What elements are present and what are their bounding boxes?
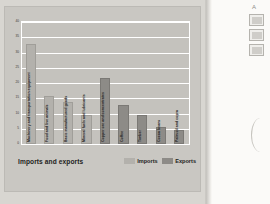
y-axis-tick-label: 10 bbox=[10, 111, 19, 115]
page-fold-line bbox=[205, 0, 206, 204]
y-axis-tick-label: 30 bbox=[10, 50, 19, 54]
bar-category-label: Palm oil and copra bbox=[176, 110, 180, 142]
bar-slot[interactable]: Copper ore and concentrates bbox=[100, 22, 108, 144]
margin-thumbnail-2 bbox=[249, 29, 264, 41]
bar-slot[interactable]: Timber bbox=[137, 22, 145, 144]
margin-curve-decoration bbox=[251, 118, 270, 152]
y-axis-tick-label: 0 bbox=[10, 141, 19, 145]
bar-slot[interactable]: Basic manufactured goods bbox=[63, 22, 71, 144]
y-axis-tick-label: 5 bbox=[10, 126, 19, 130]
thumbnail-fill-icon bbox=[252, 47, 262, 54]
bar-series: Machinery and transportation equipmentFo… bbox=[22, 22, 189, 144]
chart-legend: ImportsExports bbox=[124, 158, 196, 164]
bar-category-label: Cocoa beans bbox=[157, 120, 161, 142]
bar-category-label: Food and live animals bbox=[46, 104, 50, 142]
bar-slot[interactable]: Coffee bbox=[118, 22, 126, 144]
bar-slot[interactable]: Palm oil and copra bbox=[174, 22, 182, 144]
bar-slot[interactable]: Machinery and transportation equipment bbox=[26, 22, 34, 144]
figure-card: Percentage of total 0510152025303540 Mac… bbox=[4, 6, 201, 192]
y-axis-tick-label: 40 bbox=[10, 19, 19, 23]
page-gutter-shadow bbox=[205, 0, 212, 204]
bar-category-label: Mineral fuels and lubricants bbox=[83, 94, 87, 142]
bar-slot[interactable]: Cocoa beans bbox=[156, 22, 164, 144]
legend-item-exports[interactable]: Exports bbox=[162, 158, 196, 164]
gridline bbox=[22, 144, 189, 145]
legend-swatch-icon bbox=[124, 158, 135, 164]
bar-category-label: Copper ore and concentrates bbox=[101, 92, 105, 142]
margin-thumbnail-3 bbox=[249, 44, 264, 56]
caption-row: Imports and exports ImportsExports bbox=[14, 156, 196, 172]
document-page: Percentage of total 0510152025303540 Mac… bbox=[0, 0, 205, 204]
bar-slot[interactable]: Food and live animals bbox=[44, 22, 52, 144]
y-axis-tick-label: 25 bbox=[10, 65, 19, 69]
bar-category-label: Timber bbox=[139, 130, 143, 142]
legend-label: Imports bbox=[137, 158, 158, 164]
legend-label: Exports bbox=[175, 158, 196, 164]
thumbnail-fill-icon bbox=[252, 17, 262, 24]
bar-category-label: Coffee bbox=[120, 131, 124, 142]
page-root: Percentage of total 0510152025303540 Mac… bbox=[0, 0, 270, 204]
y-axis-tick-label: 20 bbox=[10, 80, 19, 84]
page-margin-panel: A bbox=[205, 0, 270, 204]
legend-item-imports[interactable]: Imports bbox=[124, 158, 158, 164]
bar-slot[interactable]: Mineral fuels and lubricants bbox=[81, 22, 89, 144]
margin-thumbnail-1 bbox=[249, 14, 264, 26]
bar-category-label: Machinery and transportation equipment bbox=[27, 72, 31, 142]
thumbnail-fill-icon bbox=[252, 32, 262, 39]
margin-marker-label: A bbox=[252, 4, 256, 10]
y-axis-tick-label: 35 bbox=[10, 34, 19, 38]
y-axis-tick-label: 15 bbox=[10, 95, 19, 99]
figure-caption: Imports and exports bbox=[18, 158, 83, 165]
bar-category-label: Basic manufactured goods bbox=[64, 96, 68, 142]
legend-swatch-icon bbox=[162, 158, 173, 164]
